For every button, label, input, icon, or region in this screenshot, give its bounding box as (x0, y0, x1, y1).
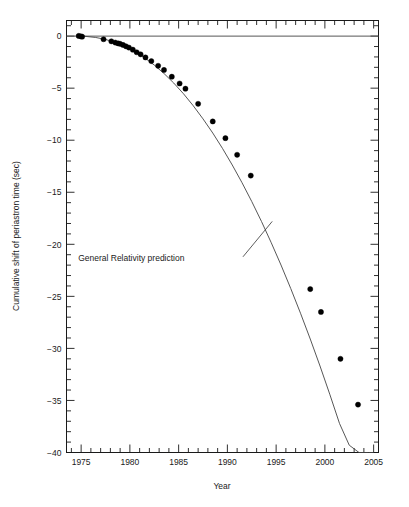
data-point (177, 81, 182, 86)
data-point (235, 152, 240, 157)
data-point (149, 59, 154, 64)
data-point (318, 309, 323, 314)
x-tick-label: 1990 (218, 457, 237, 467)
data-point (138, 52, 143, 57)
chart-canvas: 1975198019851990199520002005 0−5−10−15−2… (0, 0, 409, 507)
data-point (223, 136, 228, 141)
y-tick-label: 0 (57, 31, 62, 41)
data-point (169, 74, 174, 79)
x-axis-title: Year (213, 481, 230, 491)
data-point (161, 67, 166, 72)
x-tick-label: 2000 (315, 457, 334, 467)
data-point (156, 63, 161, 68)
data-point (338, 356, 343, 361)
x-tick-label: 1980 (120, 457, 139, 467)
y-tick-label: −35 (47, 396, 62, 406)
data-point (143, 55, 148, 60)
data-point (210, 119, 215, 124)
y-axis-title: Cumulative shift of periastron time (sec… (11, 161, 21, 311)
data-point (248, 173, 253, 178)
x-tick-label: 1995 (267, 457, 286, 467)
y-tick-label: −30 (47, 344, 62, 354)
y-tick-label: −5 (52, 83, 62, 93)
x-tick-label: 2005 (364, 457, 383, 467)
y-tick-label: −40 (47, 448, 62, 458)
periastron-shift-figure: 1975198019851990199520002005 0−5−10−15−2… (0, 0, 409, 507)
data-point (101, 37, 106, 42)
annotation-label: General Relativity prediction (78, 253, 185, 263)
data-point (80, 34, 85, 39)
y-tick-label: −25 (47, 292, 62, 302)
data-point (355, 402, 360, 407)
y-tick-label: −10 (47, 135, 62, 145)
data-point (183, 86, 188, 91)
figure-background (0, 0, 409, 507)
x-tick-label: 1985 (169, 457, 188, 467)
data-point (308, 286, 313, 291)
y-tick-label: −20 (47, 240, 62, 250)
y-tick-label: −15 (47, 187, 62, 197)
x-tick-label: 1975 (72, 457, 91, 467)
data-point (196, 101, 201, 106)
